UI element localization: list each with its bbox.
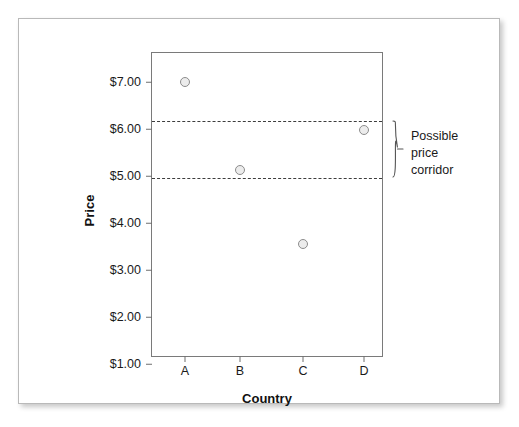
y-tick-label: $7.00 [110, 76, 141, 89]
y-tick-mark [146, 176, 152, 177]
y-tick-mark [146, 82, 152, 83]
y-tick-label: $4.00 [110, 217, 141, 230]
data-point-d[interactable] [359, 125, 369, 135]
figure-card: Price Country $7.00 $6.00 $5.00 $4.00 $3… [18, 18, 500, 404]
x-tick-label-b: B [236, 365, 244, 378]
y-axis-title-text: Price [83, 194, 98, 226]
y-tick-4: $4.00 [110, 217, 152, 230]
corridor-label-line1: Possible [411, 128, 458, 145]
x-tick-mark-b [240, 356, 241, 362]
data-point-a[interactable] [180, 77, 190, 87]
corridor-annotation-label: Possible price corridor [411, 128, 458, 179]
y-tick-3: $3.00 [110, 264, 152, 277]
corridor-label-line3: corridor [411, 162, 458, 179]
y-tick-2: $2.00 [110, 311, 152, 324]
y-tick-mark [146, 317, 152, 318]
y-tick-mark [146, 129, 152, 130]
x-tick-label-d: D [359, 365, 368, 378]
y-tick-label: $3.00 [110, 264, 141, 277]
corridor-brace-icon [391, 120, 405, 178]
y-tick-mark [146, 223, 152, 224]
y-axis-title: Price [81, 184, 99, 236]
y-tick-label: $5.00 [110, 170, 141, 183]
y-tick-label: $1.00 [110, 358, 141, 371]
y-tick-7: $7.00 [110, 76, 152, 89]
caption-strip [20, 414, 490, 423]
y-tick-6: $6.00 [110, 123, 152, 136]
y-tick-mark [146, 270, 152, 271]
y-tick-1: $1.00 [110, 358, 152, 371]
corridor-upper-line [152, 121, 382, 122]
y-tick-label: $6.00 [110, 123, 141, 136]
x-tick-mark-d [364, 356, 365, 362]
x-tick-mark-c [303, 356, 304, 362]
y-tick-5: $5.00 [110, 170, 152, 183]
data-point-c[interactable] [298, 239, 308, 249]
x-tick-label-c: C [298, 365, 307, 378]
corridor-lower-line [152, 178, 382, 179]
y-tick-mark [146, 364, 152, 365]
x-axis-title: Country [151, 391, 383, 406]
x-tick-label-a: A [181, 365, 189, 378]
plot-panel: $7.00 $6.00 $5.00 $4.00 $3.00 $2.00 $1.0… [151, 52, 383, 357]
y-tick-label: $2.00 [110, 311, 141, 324]
data-point-b[interactable] [235, 165, 245, 175]
x-tick-mark-a [185, 356, 186, 362]
corridor-label-line2: price [411, 145, 458, 162]
